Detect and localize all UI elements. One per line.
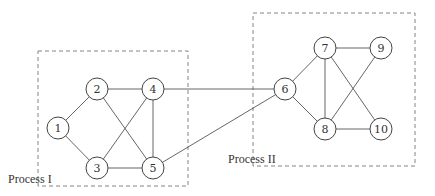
process-2-label: Process II [228,152,276,166]
graph-diagram: 12345678910 Process IProcess II [0,0,435,196]
process-1-label: Process I [8,172,52,186]
node-label: 6 [282,83,289,96]
node-1: 1 [47,117,69,139]
node-4: 4 [142,78,164,100]
node-3: 3 [86,157,108,179]
node-10: 10 [370,118,392,140]
node-label: 9 [378,42,385,55]
node-label: 10 [374,123,388,136]
node-6: 6 [274,78,296,100]
node-7: 7 [314,37,336,59]
node-5: 5 [142,157,164,179]
graph-edges [58,48,381,168]
node-label: 4 [150,83,157,96]
node-label: 3 [94,162,101,175]
node-label: 7 [322,42,329,55]
node-8: 8 [314,118,336,140]
node-label: 8 [322,123,329,136]
node-label: 5 [150,162,157,175]
node-9: 9 [370,37,392,59]
node-2: 2 [86,78,108,100]
graph-nodes: 12345678910 [47,37,392,179]
node-label: 1 [55,122,62,135]
node-label: 2 [94,83,101,96]
